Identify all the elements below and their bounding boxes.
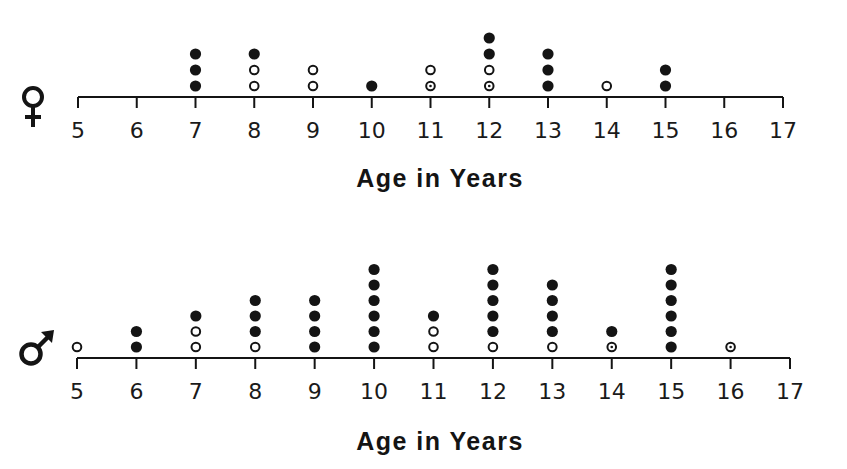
x-tick-label: 9	[308, 379, 322, 404]
data-point	[190, 310, 201, 321]
x-tick-label: 14	[598, 379, 626, 404]
data-point	[547, 326, 558, 337]
data-point	[250, 310, 261, 321]
data-point	[368, 310, 379, 321]
data-point	[487, 279, 498, 290]
male-symbol-icon	[22, 330, 55, 364]
data-point	[666, 341, 677, 352]
data-point	[666, 310, 677, 321]
data-point	[487, 310, 498, 321]
data-point	[309, 326, 320, 337]
x-tick-label: 7	[189, 379, 203, 404]
x-tick-label: 17	[776, 379, 804, 404]
data-point	[547, 295, 558, 306]
data-point	[309, 310, 320, 321]
data-point	[726, 343, 735, 352]
data-point	[548, 343, 557, 352]
data-point	[192, 327, 201, 336]
data-point	[428, 310, 439, 321]
x-tick-label: 6	[129, 379, 143, 404]
data-point	[666, 279, 677, 290]
x-tick-label: 5	[70, 379, 84, 404]
data-point	[368, 326, 379, 337]
male-data-points	[73, 264, 735, 353]
data-point	[666, 295, 677, 306]
x-tick-label: 13	[538, 379, 566, 404]
data-point	[487, 264, 498, 275]
male-x-axis: 567891011121314151617	[70, 358, 804, 404]
data-point	[250, 326, 261, 337]
data-point	[131, 341, 142, 352]
data-point	[73, 343, 82, 352]
data-point	[309, 341, 320, 352]
data-point	[250, 295, 261, 306]
data-point	[309, 295, 320, 306]
x-tick-label: 11	[420, 379, 448, 404]
male-x-axis-title: Age in Years	[0, 427, 847, 456]
x-tick-label: 12	[479, 379, 507, 404]
male-panel: 567891011121314151617 Age in Years	[0, 0, 847, 469]
data-point	[606, 326, 617, 337]
data-point	[251, 343, 260, 352]
data-point	[192, 343, 201, 352]
data-point	[131, 326, 142, 337]
data-point	[368, 264, 379, 275]
data-point	[489, 343, 498, 352]
data-point	[666, 326, 677, 337]
data-point	[607, 343, 616, 352]
data-point	[368, 279, 379, 290]
x-tick-label: 10	[360, 379, 388, 404]
data-point	[547, 310, 558, 321]
data-point	[487, 326, 498, 337]
x-tick-label: 8	[248, 379, 262, 404]
male-dot-plot: 567891011121314151617	[0, 0, 847, 469]
x-tick-label: 16	[717, 379, 745, 404]
data-point	[368, 341, 379, 352]
data-point	[547, 279, 558, 290]
data-point	[429, 343, 438, 352]
x-tick-label: 15	[657, 379, 685, 404]
data-point	[368, 295, 379, 306]
data-point	[487, 295, 498, 306]
data-point	[429, 327, 438, 336]
data-point	[666, 264, 677, 275]
